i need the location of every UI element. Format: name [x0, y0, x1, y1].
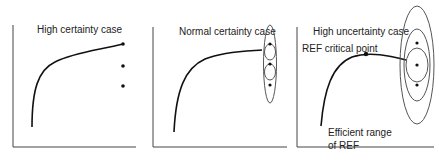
data-point	[121, 42, 125, 46]
panel-title: High uncertainty case	[313, 26, 410, 37]
panel-high-certainty: High certainty case	[13, 24, 136, 147]
panel-title: High certainty case	[37, 24, 122, 35]
data-point	[121, 84, 125, 88]
certainty-diagram: High certainty case Normal certainty cas…	[0, 0, 439, 163]
data-point	[268, 83, 271, 86]
panel-title: Normal certainty case	[179, 26, 276, 37]
data-point	[268, 42, 271, 45]
data-point	[121, 64, 125, 68]
data-point	[415, 63, 418, 66]
data-point	[268, 62, 271, 65]
data-point	[415, 41, 418, 44]
uncertainty-ellipse	[265, 64, 276, 80]
uncertainty-ellipse	[265, 44, 276, 60]
curve	[321, 54, 406, 126]
curve	[32, 44, 123, 127]
data-point	[415, 83, 418, 86]
panel-high-uncertainty: High uncertainty case REF critical point…	[297, 6, 434, 151]
critical-point-marker	[364, 52, 368, 56]
panel-normal-certainty: Normal certainty case	[153, 25, 287, 147]
curve	[174, 50, 262, 132]
efficient-range-label: Efficient range	[328, 127, 392, 138]
efficient-range-label: of REF	[328, 140, 359, 151]
